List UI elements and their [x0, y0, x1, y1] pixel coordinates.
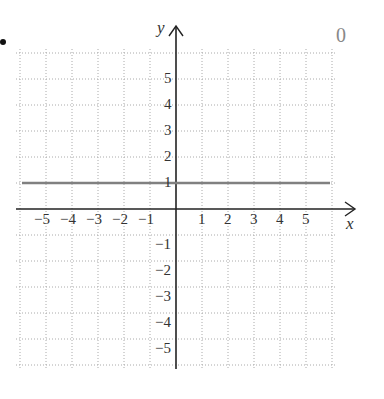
y-tick-label: −2 [155, 263, 171, 278]
y-tick-label: −5 [155, 341, 171, 356]
x-tick-label: 4 [276, 212, 284, 227]
x-tick-label: −4 [60, 212, 76, 227]
y-tick-label: 1 [164, 175, 172, 190]
y-tick-label: 4 [164, 97, 172, 112]
x-tick-label: 1 [198, 212, 206, 227]
coordinate-plane [0, 0, 384, 399]
y-tick-label: −4 [155, 315, 171, 330]
x-tick-label: 5 [302, 212, 310, 227]
x-tick-label: −5 [34, 212, 50, 227]
x-tick-label: −3 [86, 212, 102, 227]
x-tick-label: −2 [112, 212, 128, 227]
x-axis-label: x [346, 215, 354, 232]
y-tick-label: 2 [164, 149, 172, 164]
x-tick-label: 2 [224, 212, 232, 227]
x-tick-label: −1 [138, 212, 154, 227]
y-tick-label: 5 [164, 71, 172, 86]
y-tick-label: −1 [155, 237, 171, 252]
y-axis-label: y [157, 19, 165, 36]
y-tick-label: 3 [164, 123, 172, 138]
x-tick-label: 3 [250, 212, 258, 227]
y-tick-label: −3 [155, 289, 171, 304]
